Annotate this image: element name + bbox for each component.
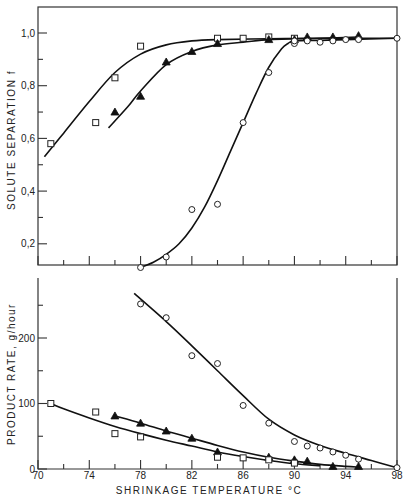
triangle-marker — [162, 58, 170, 65]
circle-marker — [138, 301, 144, 307]
fit-curve — [51, 404, 320, 466]
bottom-y-axis-title: PRODUCT RATE, g/hour — [6, 303, 17, 445]
square-marker — [48, 141, 54, 147]
square-marker — [138, 434, 144, 440]
square-marker — [93, 409, 99, 415]
circle-marker — [356, 456, 362, 462]
circle-marker — [356, 37, 362, 43]
circle-marker — [394, 465, 400, 471]
circle-marker — [304, 38, 310, 44]
y-tick-label: 0,8 — [21, 80, 35, 91]
circle-marker — [215, 361, 221, 367]
circle-marker — [330, 449, 336, 455]
fit-curve — [44, 38, 397, 157]
square-marker — [215, 454, 221, 460]
top-y-axis-title: SOLUTE SEPARATION f — [6, 70, 17, 210]
triangle-marker — [303, 457, 311, 464]
square-marker — [112, 431, 118, 437]
series-square — [44, 34, 397, 157]
fit-curve — [109, 37, 359, 128]
x-tick-label: 90 — [289, 470, 301, 481]
y-tick-label: 0,2 — [21, 238, 35, 249]
series-circle — [138, 35, 400, 270]
series-triangle — [111, 412, 363, 469]
circle-marker — [317, 445, 323, 451]
circle-marker — [266, 420, 272, 426]
circle-marker — [304, 443, 310, 449]
square-marker — [48, 401, 54, 407]
square-marker — [240, 455, 246, 461]
triangle-marker — [111, 108, 119, 115]
square-marker — [112, 75, 118, 81]
series-triangle — [109, 32, 363, 128]
triangle-marker — [111, 412, 119, 419]
circle-marker — [215, 201, 221, 207]
circle-marker — [394, 35, 400, 41]
circle-marker — [138, 265, 144, 271]
x-axis-title: SHRINKAGE TEMPERATURE °C — [116, 485, 302, 496]
circle-marker — [163, 254, 169, 260]
series-square — [48, 401, 320, 467]
y-tick-label: 0 — [29, 464, 35, 475]
circle-marker — [343, 37, 349, 43]
square-marker — [93, 120, 99, 126]
series-circle — [134, 293, 400, 470]
y-tick-label: 200 — [18, 333, 35, 344]
square-marker — [240, 35, 246, 41]
circle-marker — [163, 315, 169, 321]
circle-marker — [330, 38, 336, 44]
solute-separation-panel: 0,20,40,60,81,0 — [21, 7, 400, 271]
y-tick-label: 0,4 — [21, 186, 35, 197]
y-tick-label: 100 — [18, 398, 35, 409]
fit-curve — [115, 416, 359, 467]
circle-marker — [240, 402, 246, 408]
circle-marker — [240, 120, 246, 126]
x-tick-label: 78 — [135, 470, 147, 481]
x-tick-label: 98 — [391, 470, 403, 481]
x-tick-label: 74 — [84, 470, 96, 481]
circle-marker — [291, 438, 297, 444]
square-marker — [266, 457, 272, 463]
x-tick-label: 82 — [186, 470, 198, 481]
y-tick-label: 1,0 — [21, 28, 35, 39]
x-tick-label: 86 — [238, 470, 250, 481]
triangle-marker — [355, 462, 363, 469]
circle-marker — [291, 38, 297, 44]
chart-figure: 0,20,40,60,81,0 70747882869094980100200 … — [0, 0, 407, 499]
circle-marker — [189, 353, 195, 359]
x-tick-label: 94 — [340, 470, 352, 481]
circle-marker — [189, 207, 195, 213]
product-rate-panel: 70747882869094980100200 — [18, 278, 403, 481]
plot-frame — [38, 278, 397, 469]
square-marker — [291, 460, 297, 466]
y-tick-label: 0,6 — [21, 133, 35, 144]
circle-marker — [266, 70, 272, 76]
circle-marker — [317, 39, 323, 45]
circle-marker — [343, 452, 349, 458]
square-marker — [138, 43, 144, 49]
